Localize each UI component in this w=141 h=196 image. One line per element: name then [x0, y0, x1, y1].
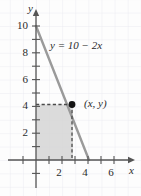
y-axis-label: y	[28, 3, 33, 14]
shaded-rectangle	[36, 105, 73, 161]
x-tick-label-6: 6	[104, 167, 118, 178]
y-tick-label-6: 6	[4, 74, 28, 85]
graph-figure: 10 8 6 4 2 2 4 6 y x y = 10 − 2x (x, y)	[0, 0, 141, 196]
x-tick-label-4: 4	[78, 167, 92, 178]
y-tick-label-4: 4	[4, 100, 28, 111]
point-label: (x, y)	[84, 98, 107, 109]
x-axis-label: x	[129, 165, 134, 176]
x-tick-label-2: 2	[52, 167, 66, 178]
equation-label: y = 10 − 2x	[50, 40, 102, 51]
y-tick-label-10: 10	[4, 20, 28, 31]
data-point-marker	[69, 101, 76, 108]
y-tick-label-8: 8	[4, 47, 28, 58]
y-tick-label-2: 2	[4, 127, 28, 138]
